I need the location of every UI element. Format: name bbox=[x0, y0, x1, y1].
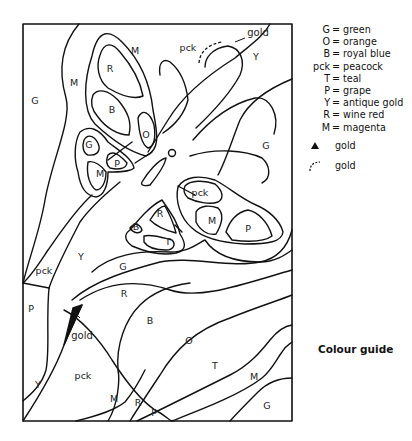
legend-entry: Y=antique gold bbox=[300, 97, 410, 109]
region-label: P bbox=[151, 408, 157, 418]
legend-colour-name: antique gold bbox=[343, 97, 403, 109]
legend-code: Y bbox=[300, 97, 332, 109]
legend-symbol-dashed-arc: gold bbox=[300, 158, 410, 174]
legend-colour-name: wine red bbox=[343, 109, 384, 121]
region-label: M bbox=[110, 394, 118, 404]
region-label: M bbox=[250, 372, 258, 382]
equals-sign: = bbox=[332, 61, 343, 73]
equals-sign: = bbox=[332, 122, 343, 134]
legend-code: G bbox=[300, 24, 332, 36]
gold-annotation-bottom: gold bbox=[71, 331, 93, 341]
legend-entry: O=orange bbox=[300, 36, 410, 48]
region-label: M bbox=[131, 46, 139, 56]
region-label: G bbox=[263, 401, 270, 411]
equals-sign: = bbox=[332, 97, 343, 109]
legend-code: T bbox=[300, 73, 332, 85]
region-label: M bbox=[208, 216, 216, 226]
region-label: O bbox=[185, 336, 192, 346]
region-label: pck bbox=[36, 266, 53, 276]
legend-colour-name: peacock bbox=[343, 61, 383, 73]
dashed-arc-icon bbox=[300, 160, 330, 172]
legend-colour-name: royal blue bbox=[343, 48, 391, 60]
colour-legend: G=greenO=orangeB=royal bluepck=peacockT=… bbox=[300, 24, 410, 174]
region-label: M bbox=[96, 169, 104, 179]
region-label: P bbox=[114, 159, 120, 169]
region-label: T bbox=[165, 237, 171, 247]
region-label: Y bbox=[253, 52, 259, 62]
legend-colour-name: green bbox=[343, 24, 371, 36]
region-label: P bbox=[28, 304, 34, 314]
region-label: R bbox=[107, 64, 114, 74]
equals-sign: = bbox=[332, 24, 343, 36]
legend-entry: T=teal bbox=[300, 73, 410, 85]
region-label: P bbox=[245, 224, 251, 234]
legend-code: M bbox=[300, 122, 332, 134]
region-label: G bbox=[31, 96, 38, 106]
equals-sign: = bbox=[332, 85, 343, 97]
legend-entry: pck=peacock bbox=[300, 61, 410, 73]
filled-triangle-icon bbox=[300, 141, 330, 150]
legend-entry: M=magenta bbox=[300, 122, 410, 134]
equals-sign: = bbox=[332, 36, 343, 48]
legend-colour-name: orange bbox=[343, 36, 377, 48]
region-label: G bbox=[262, 141, 269, 151]
region-label: pck bbox=[192, 188, 209, 198]
legend-code: B bbox=[300, 48, 332, 60]
region-label: T bbox=[212, 361, 218, 371]
region-label: B bbox=[147, 316, 154, 326]
region-label: pck bbox=[75, 371, 92, 381]
equals-sign: = bbox=[332, 109, 343, 121]
region-label: G bbox=[119, 262, 126, 272]
region-label: B bbox=[133, 222, 140, 232]
legend-code: pck bbox=[300, 61, 332, 73]
legend-entry: R=wine red bbox=[300, 109, 410, 121]
region-label: R bbox=[135, 398, 142, 408]
equals-sign: = bbox=[332, 48, 343, 60]
equals-sign: = bbox=[332, 73, 343, 85]
legend-colour-name: teal bbox=[343, 73, 361, 85]
colour-guide-title: Colour guide bbox=[318, 343, 393, 355]
region-label: R bbox=[121, 289, 128, 299]
legend-entry: B=royal blue bbox=[300, 48, 410, 60]
region-label: R bbox=[157, 209, 164, 219]
legend-code: O bbox=[300, 36, 332, 48]
gold-dashed-arc bbox=[199, 42, 222, 63]
region-label: Y bbox=[78, 252, 84, 262]
legend-symbol-triangle: gold bbox=[300, 138, 410, 154]
region-label: M bbox=[70, 78, 78, 88]
legend-code: P bbox=[300, 85, 332, 97]
region-label: B bbox=[109, 105, 116, 115]
legend-colour-name: grape bbox=[343, 85, 371, 97]
legend-colour-name: magenta bbox=[343, 122, 386, 134]
outline-stem-left bbox=[23, 24, 79, 283]
legend-entry: G=green bbox=[300, 24, 410, 36]
region-label: O bbox=[142, 130, 149, 140]
legend-code: R bbox=[300, 109, 332, 121]
legend-entry: P=grape bbox=[300, 85, 410, 97]
region-label: G bbox=[85, 140, 92, 150]
region-label: pck bbox=[180, 43, 197, 53]
gold-annotation-top: gold bbox=[247, 28, 269, 38]
region-label: Y bbox=[35, 380, 41, 390]
